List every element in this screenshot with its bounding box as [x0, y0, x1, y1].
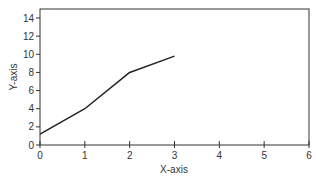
plot-border [40, 9, 309, 145]
y-tick-label: 2 [28, 121, 34, 132]
x-tick-label: 6 [306, 150, 312, 161]
y-tick-label: 14 [23, 13, 35, 24]
x-tick-label: 5 [261, 150, 267, 161]
x-tick-label: 2 [127, 150, 133, 161]
y-tick-label: 0 [28, 140, 34, 151]
x-tick-label: 0 [37, 150, 43, 161]
x-tick-label: 1 [82, 150, 88, 161]
y-tick-label: 10 [23, 49, 35, 60]
y-tick-label: 6 [28, 85, 34, 96]
y-tick-label: 12 [23, 31, 35, 42]
x-axis-ticks: 0123456 [37, 141, 312, 161]
y-axis-ticks: 02468101214 [23, 13, 40, 151]
series-line [40, 56, 175, 134]
y-tick-label: 4 [28, 103, 34, 114]
y-tick-label: 8 [28, 67, 34, 78]
data-series [40, 56, 175, 134]
x-axis-label: X-axis [160, 164, 188, 175]
line-chart: 0123456 02468101214 X-axis Y-axis [0, 0, 316, 182]
plot-frame [40, 9, 309, 145]
chart-canvas: 0123456 02468101214 X-axis Y-axis [0, 0, 316, 182]
y-axis-label: Y-axis [8, 64, 19, 91]
x-tick-label: 4 [217, 150, 223, 161]
x-tick-label: 3 [172, 150, 178, 161]
